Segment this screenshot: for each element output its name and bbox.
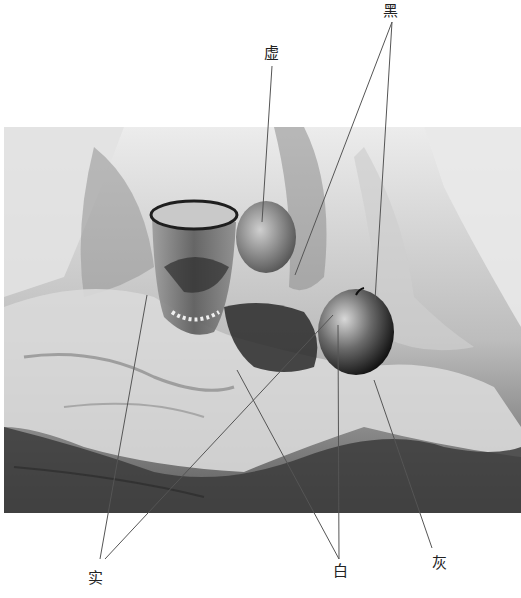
- label-xu-soft: 虚: [264, 46, 279, 61]
- label-hui-gray: 灰: [432, 556, 447, 571]
- leader-line-shi-1: [100, 295, 147, 559]
- leader-line-hui: [374, 380, 432, 548]
- leader-line-hei-2: [375, 22, 392, 300]
- leader-line-bai-1: [237, 370, 339, 559]
- label-bai-white: 白: [333, 564, 348, 579]
- label-hei-black: 黑: [383, 4, 398, 19]
- leader-line-shi-2: [105, 315, 333, 559]
- leader-line-xu: [262, 66, 272, 222]
- leader-line-bai-2: [338, 325, 339, 559]
- label-shi-solid: 实: [88, 571, 103, 586]
- annotation-leader-lines: [0, 0, 521, 598]
- leader-line-hei-1: [295, 22, 392, 275]
- figure-canvas: 黑 虚 实 白 灰: [0, 0, 521, 598]
